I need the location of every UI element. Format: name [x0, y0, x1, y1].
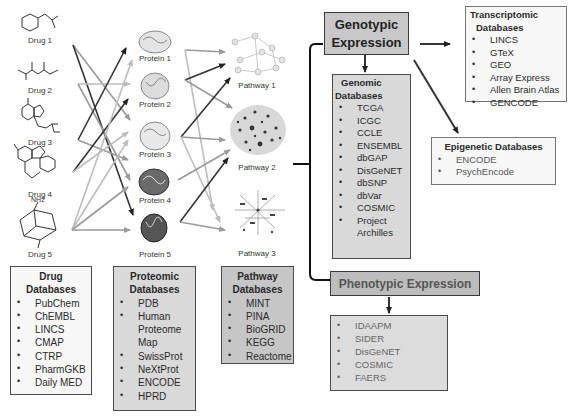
list-item: NeXtProt — [114, 363, 195, 376]
list-item: GEO — [466, 59, 566, 72]
epigenetic-databases-box: Epigenetic Databases ENCODE PsychEncode — [431, 137, 556, 185]
list-item: dbVar — [333, 190, 410, 203]
list-item: CTRP — [11, 350, 91, 363]
list-item: PsychEncode — [432, 166, 555, 179]
genomic-databases-list: TCGA ICGC CCLE ENSEMBL dbGAP DisGeNET db… — [333, 102, 410, 240]
epigenetic-databases-title: Epigenetic Databases — [432, 141, 555, 154]
list-item: PharmGKB — [11, 363, 91, 376]
pathway-databases-title-line1: Pathway — [222, 270, 293, 283]
transcriptomic-databases-box: Transcriptomic Databases LINCS GTeX GEO … — [465, 6, 567, 102]
list-item: LINCS — [11, 323, 91, 336]
list-item: ENCODE — [432, 154, 555, 167]
genotypic-expression-box: Genotypic Expression — [324, 12, 409, 55]
list-item: dbSNP — [333, 177, 410, 190]
list-item: DisGeNET — [333, 165, 410, 178]
genotypic-expression-line2: Expression — [331, 34, 401, 52]
list-item-continuation: Archilles — [333, 227, 410, 240]
list-item: Reactome — [222, 350, 293, 363]
list-item: TCGA — [333, 102, 410, 115]
list-item-continuation: Map — [114, 336, 195, 349]
list-item: Daily MED — [11, 376, 91, 389]
drug-databases-list: PubChem ChEMBL LINCS CMAP CTRP PharmGKB … — [11, 297, 91, 390]
drug-databases-title-line1: Drug — [11, 270, 91, 283]
pathway-label: Pathway 1 — [232, 81, 282, 90]
list-item: GENCODE — [466, 97, 566, 110]
drug-databases-title-line2: Databases — [11, 283, 91, 296]
phenotypic-expression-label: Phenotypic Expression — [339, 277, 472, 291]
list-item: PINA — [222, 310, 293, 323]
list-item: SIDER — [331, 332, 447, 345]
pathway-1-icon — [232, 33, 285, 75]
list-item: PDB — [114, 297, 195, 310]
pathway-3-icon — [235, 190, 285, 235]
proteomic-databases-title-line1: Proteomic — [114, 270, 195, 283]
list-item: GTeX — [466, 47, 566, 60]
list-item: LINCS — [466, 34, 566, 47]
phenotypic-expression-box: Phenotypic Expression — [330, 271, 480, 296]
genomic-databases-title-line1: Genomic — [333, 77, 410, 90]
list-item-continuation: Proteome — [114, 323, 195, 336]
transcriptomic-databases-list: LINCS GTeX GEO Array Express Allen Brain… — [466, 34, 566, 109]
list-item: DisGeNET — [331, 345, 447, 358]
list-item: MINT — [222, 297, 293, 310]
list-item: HPRD — [114, 390, 195, 403]
transcriptomic-databases-title-line2: Databases — [466, 22, 566, 35]
pathway-label: Pathway 2 — [232, 163, 282, 172]
list-item: COSMIC — [331, 358, 447, 371]
pathway-databases-box: Pathway Databases MINT PINA BioGRID KEGG… — [221, 266, 294, 364]
transcriptomic-databases-title-line1: Transcriptomic — [466, 9, 566, 22]
list-item: ENSEMBL — [333, 140, 410, 153]
pathway-label: Pathway 3 — [232, 249, 282, 258]
genomic-databases-title-line2: Databases — [333, 90, 410, 103]
pathway-2-icon — [230, 105, 286, 155]
list-item: Array Express — [466, 72, 566, 85]
genomic-databases-box: Genomic Databases TCGA ICGC CCLE ENSEMBL… — [332, 74, 411, 259]
pathway-databases-list: MINT PINA BioGRID KEGG Reactome — [222, 297, 293, 363]
pathway-databases-title-line2: Databases — [222, 283, 293, 296]
phenotypic-databases-box: IDAAPM SIDER DisGeNET COSMIC FAERS — [330, 315, 448, 391]
list-item: COSMIC — [333, 202, 410, 215]
proteomic-databases-box: Proteomic Databases PDB Human Proteome M… — [113, 266, 196, 411]
list-item: ICGC — [333, 115, 410, 128]
list-item: CCLE — [333, 127, 410, 140]
list-item: FAERS — [331, 371, 447, 384]
list-item: ChEMBL — [11, 310, 91, 323]
list-item: KEGG — [222, 336, 293, 349]
proteomic-databases-list: PDB Human Proteome Map SwissProt NeXtPro… — [114, 297, 195, 403]
list-item: SwissProt — [114, 350, 195, 363]
epigenetic-databases-list: ENCODE PsychEncode — [432, 154, 555, 179]
list-item: PubChem — [11, 297, 91, 310]
list-item: Allen Brain Atlas — [466, 84, 566, 97]
list-item: IDAAPM — [331, 319, 447, 332]
drug-databases-box: Drug Databases PubChem ChEMBL LINCS CMAP… — [10, 266, 92, 395]
list-item: Human — [114, 310, 195, 323]
genotypic-expression-line1: Genotypic — [335, 16, 399, 34]
list-item: dbGAP — [333, 152, 410, 165]
phenotypic-databases-list: IDAAPM SIDER DisGeNET COSMIC FAERS — [331, 319, 447, 385]
list-item: BioGRID — [222, 323, 293, 336]
list-item: CMAP — [11, 336, 91, 349]
list-item: Project — [333, 215, 410, 228]
proteomic-databases-title-line2: Databases — [114, 283, 195, 296]
list-item: ENCODE — [114, 376, 195, 389]
